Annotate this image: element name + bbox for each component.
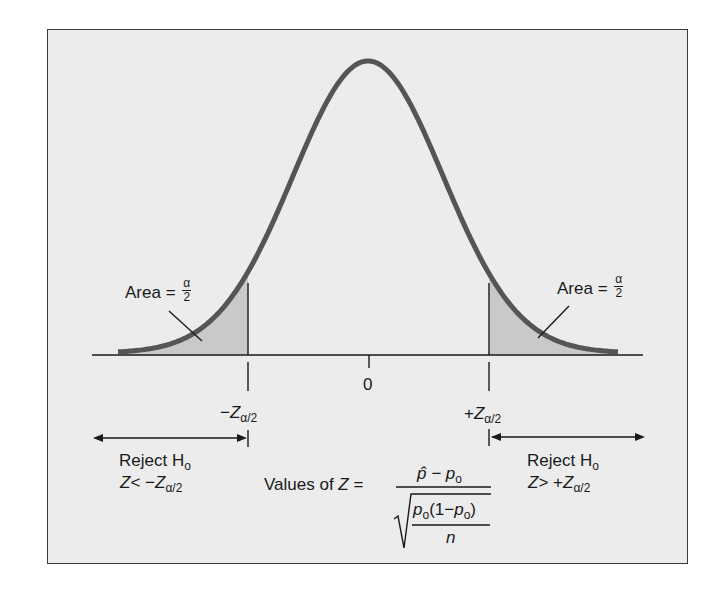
normal-curve	[118, 61, 618, 352]
radicand-close: )	[470, 500, 476, 519]
right-area-alpha: α	[614, 273, 623, 287]
right-critical-sub: α/2	[484, 412, 501, 426]
left-area-two: 2	[182, 291, 191, 304]
left-critical-label: −Zα/2	[220, 404, 257, 421]
right-cond-var: Z	[528, 473, 538, 492]
radicand-mid: (1−	[429, 500, 454, 519]
right-area-pointer	[538, 306, 569, 338]
left-area-alpha: α	[182, 277, 191, 291]
left-reject-label: Reject Ho	[119, 452, 191, 469]
right-reject-text: Reject H	[527, 451, 592, 470]
formula-prefix-text: Values of	[264, 475, 334, 494]
right-critical-sign: +	[464, 404, 474, 423]
left-cond-rhs-var: Z	[155, 473, 165, 492]
radicand-sub2: o	[464, 508, 471, 522]
right-critical-label: +Zα/2	[464, 405, 501, 422]
radicand-sub1: o	[422, 508, 429, 522]
left-area-fraction: α 2	[182, 277, 191, 303]
right-cond-rhs-var: Z	[563, 473, 573, 492]
right-area-two: 2	[614, 287, 623, 300]
formula-numerator-sub: o	[455, 472, 462, 486]
right-arrowhead-icon	[635, 433, 645, 441]
left-critical-var: Z	[230, 403, 240, 422]
right-reject-label: Reject Ho	[527, 452, 599, 469]
left-reject-text: Reject H	[119, 451, 184, 470]
left-critical-sub: α/2	[240, 411, 257, 425]
left-arrowhead-icon	[93, 434, 103, 442]
left-critical-sign: −	[220, 403, 230, 422]
formula-numerator: p̂ − po	[417, 465, 462, 482]
right-reject-sub: o	[592, 459, 599, 473]
left-cond-rhs-sub: α/2	[165, 481, 182, 495]
right-cond-op: > +	[538, 473, 563, 492]
formula-radicand-numerator: po(1−po)	[413, 501, 476, 518]
left-cond-var: Z	[120, 473, 130, 492]
left-reject-sub: o	[184, 459, 191, 473]
right-area-text: Area =	[557, 279, 608, 298]
right-cond-rhs-sub: α/2	[573, 481, 590, 495]
right-critical-var: Z	[474, 404, 484, 423]
right-area-label: Area = α 2	[557, 276, 623, 302]
formula-numerator-text: p̂ − p	[417, 464, 455, 483]
left-area-text: Area =	[125, 283, 176, 302]
center-zero-label: 0	[363, 376, 372, 393]
formula-radicand-denominator: n	[446, 529, 455, 546]
formula-var: Z	[338, 475, 348, 494]
formula-equals: =	[353, 475, 363, 494]
left-area-label: Area = α 2	[125, 280, 191, 306]
right-arrowhead-inner-icon	[491, 433, 501, 441]
formula-prefix: Values of Z =	[264, 476, 363, 493]
left-reject-condition: Z< −Zα/2	[120, 474, 182, 491]
left-arrowhead-inner-icon	[237, 434, 247, 442]
left-cond-op: < −	[130, 473, 155, 492]
right-reject-condition: Z> +Zα/2	[528, 474, 590, 491]
right-area-fraction: α 2	[614, 273, 623, 299]
radicand-p2: p	[454, 500, 463, 519]
